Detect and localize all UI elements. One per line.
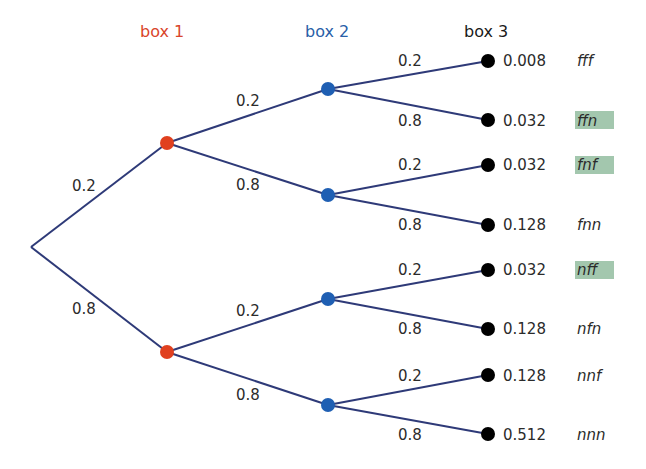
edge-label-nf: 0.2 bbox=[236, 302, 260, 320]
edge-label-fff: 0.2 bbox=[398, 52, 422, 70]
leaf-prob-fnn: 0.128 bbox=[503, 216, 546, 234]
leaf-outcome-nnn: nnn bbox=[577, 426, 606, 444]
leaf-prob-nnn: 0.512 bbox=[503, 426, 546, 444]
header-box2: box 2 bbox=[305, 22, 349, 41]
leaf-outcome-nnf: nnf bbox=[577, 367, 604, 385]
header-box1: box 1 bbox=[140, 22, 184, 41]
leaf-outcome-fnn: fnn bbox=[577, 216, 601, 234]
leaf-outcome-fff: fff bbox=[577, 52, 596, 70]
edge-label-ffn: 0.8 bbox=[398, 112, 422, 130]
probability-tree-diagram: box 1 box 2 box 3 0.2 0.8 0.2 0.8 0.2 0.… bbox=[0, 0, 646, 469]
leaf-prob-nfn: 0.128 bbox=[503, 320, 546, 338]
leaf-nodes bbox=[481, 54, 495, 441]
leaf-prob-ffn: 0.032 bbox=[503, 112, 546, 130]
edge-label-root-n: 0.8 bbox=[72, 300, 96, 318]
box2-node-nf bbox=[321, 292, 335, 306]
edge-label-nfn: 0.8 bbox=[398, 320, 422, 338]
box2-node-ff bbox=[321, 82, 335, 96]
edge-root-n bbox=[31, 247, 167, 352]
box2-node-nn bbox=[321, 398, 335, 412]
box1-node-n bbox=[160, 345, 174, 359]
edge-root-f bbox=[31, 143, 167, 247]
edge-label-fnf: 0.2 bbox=[398, 156, 422, 174]
edge-label-nnf: 0.2 bbox=[398, 367, 422, 385]
edge-label-fn: 0.8 bbox=[236, 176, 260, 194]
header-box3: box 3 bbox=[464, 22, 508, 41]
leaf-prob-nff: 0.032 bbox=[503, 261, 546, 279]
leaf-prob-fnf: 0.032 bbox=[503, 156, 546, 174]
leaf-outcome-nfn: nfn bbox=[577, 320, 601, 338]
leaf-outcome-ffn: ffn bbox=[577, 112, 597, 130]
box2-node-fn bbox=[321, 188, 335, 202]
leaf-outcome-nff: nff bbox=[577, 261, 600, 279]
leaf-outcome-fnf: fnf bbox=[577, 156, 600, 174]
leaf-prob-nnf: 0.128 bbox=[503, 367, 546, 385]
leaf-prob-fff: 0.008 bbox=[503, 52, 546, 70]
edge-label-fnn: 0.8 bbox=[398, 216, 422, 234]
edge-label-nnn: 0.8 bbox=[398, 426, 422, 444]
edge-label-nn: 0.8 bbox=[236, 386, 260, 404]
edge-label-root-f: 0.2 bbox=[72, 177, 96, 195]
box1-node-f bbox=[160, 136, 174, 150]
edge-label-nff: 0.2 bbox=[398, 261, 422, 279]
edge-label-ff: 0.2 bbox=[236, 92, 260, 110]
